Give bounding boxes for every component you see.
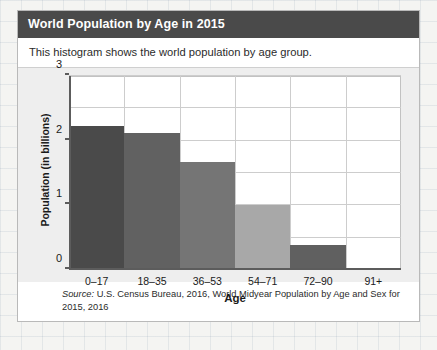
bar [235,205,290,270]
y-axis-tick-label: 0 [56,252,62,264]
subtitle-text: This histogram shows the world populatio… [29,46,312,58]
x-axis-tick-label: 18–35 [137,275,166,287]
chart-body: Population (in billions) 0123 0–1718–353… [18,68,419,282]
x-axis-tick-label: 72–90 [303,275,332,287]
x-axis-title: Age [69,292,401,304]
x-axis-tick-label: 54–71 [248,275,277,287]
y-axis-tick-label: 2 [56,123,62,135]
y-axis-tick-mark [65,138,69,140]
y-axis-tick-mark [65,267,69,269]
bar [124,133,179,270]
plot-frame: 0123 0–1718–3536–5354–7172–9091+ [69,76,401,270]
x-axis-line [69,268,401,270]
x-axis-tick-label: 91+ [364,275,382,287]
gridline-vertical [346,76,347,270]
page-title: World Population by Age in 2015 [28,17,225,31]
bar [290,245,345,270]
chart-card: World Population by Age in 2015 This his… [17,10,420,322]
y-axis-line [69,76,71,270]
y-axis-tick-mark [65,73,69,75]
x-axis-tick-label: 0–17 [85,275,108,287]
card-subtitle: This histogram shows the world populatio… [18,38,419,68]
y-axis-tick-label: 1 [56,187,62,199]
y-axis-tick-mark [65,202,69,204]
card-title-bar: World Population by Age in 2015 [18,11,419,38]
y-axis-tick-label: 3 [56,58,62,70]
y-axis-title: Population (in billions) [39,95,51,245]
x-axis-tick-label: 36–53 [193,275,222,287]
gridline-vertical [290,76,291,270]
bar [180,162,235,270]
bar [69,126,124,270]
